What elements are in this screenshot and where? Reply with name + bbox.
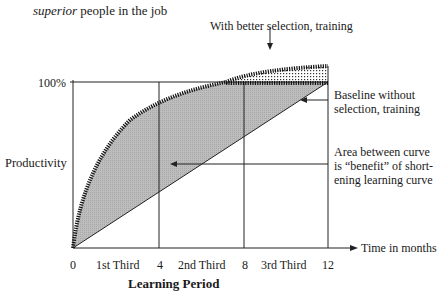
baseline-label-1: Baseline without bbox=[334, 88, 415, 102]
x-tick-12: 12 bbox=[322, 258, 334, 273]
area-label-3: ening learning curve bbox=[334, 173, 433, 187]
x-tick-2nd-third: 2nd Third bbox=[178, 258, 225, 273]
y-tick-100-label: 100% bbox=[38, 76, 66, 90]
area-label-1: Area between curve bbox=[334, 145, 430, 159]
x-tick-3rd-third: 3rd Third bbox=[261, 258, 306, 273]
x-axis-label: Time in months bbox=[361, 241, 437, 255]
x-tick-0: 0 bbox=[70, 258, 76, 273]
x-tick-8: 8 bbox=[242, 258, 248, 273]
x-tick-4: 4 bbox=[157, 258, 163, 273]
baseline-label-2: selection, training bbox=[334, 102, 420, 116]
x-title: Learning Period bbox=[128, 276, 219, 292]
y-axis-label: Productivity bbox=[5, 156, 67, 170]
area-label-2: is “benefit” of short- bbox=[334, 159, 433, 173]
x-axis-arrowhead bbox=[350, 245, 358, 251]
better-selection-label: With better selection, training bbox=[210, 19, 353, 33]
x-tick-1st-third: 1st Third bbox=[96, 258, 139, 273]
better-arrowhead bbox=[267, 43, 273, 50]
